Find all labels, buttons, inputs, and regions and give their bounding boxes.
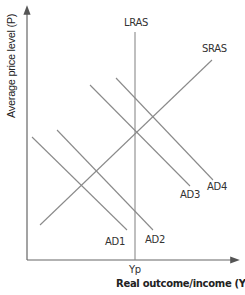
lras-label: LRAS xyxy=(124,17,148,28)
sras-line xyxy=(40,60,212,225)
ad1-line xyxy=(32,137,127,230)
sras-label: SRAS xyxy=(202,43,227,54)
ad1-label: AD1 xyxy=(105,236,125,247)
ad3-label: AD3 xyxy=(180,189,200,200)
ad4-label: AD4 xyxy=(207,181,227,192)
y-axis-label: Average price level (P) xyxy=(5,14,17,118)
ad4-line xyxy=(116,78,213,180)
ad2-line xyxy=(57,130,153,230)
ad2-label: AD2 xyxy=(145,234,165,245)
ad3-line xyxy=(90,85,190,186)
x-axis-label: Real outcome/income (Yr) xyxy=(116,278,245,289)
x-tick-yp: Yp xyxy=(129,264,141,275)
